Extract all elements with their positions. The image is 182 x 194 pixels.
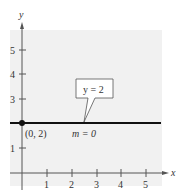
x-axis-arrow-icon xyxy=(162,171,169,175)
y-tick-label: 4 xyxy=(10,69,15,80)
y-tick-label: 3 xyxy=(10,94,15,105)
x-tick-label: 1 xyxy=(44,179,49,190)
x-tick-label: 3 xyxy=(94,179,99,190)
x-tick-label: 5 xyxy=(143,179,148,190)
point-label: (0, 2) xyxy=(25,128,47,140)
y-tick-label: 1 xyxy=(10,143,15,154)
slope-label: m = 0 xyxy=(72,128,96,139)
y-axis-arrow-icon xyxy=(20,22,24,29)
chart: y 1 3 4 5 x 1 2 3 4 5 (0, 2) m = 0 y = 2 xyxy=(0,0,182,194)
point-0-2 xyxy=(19,120,25,126)
x-axis-label: x xyxy=(170,167,176,178)
callout-label: y = 2 xyxy=(83,84,104,95)
y-axis-label: y xyxy=(18,9,24,20)
y-tick-label: 5 xyxy=(10,45,15,56)
x-tick-label: 4 xyxy=(118,179,123,190)
x-tick-label: 2 xyxy=(69,179,74,190)
